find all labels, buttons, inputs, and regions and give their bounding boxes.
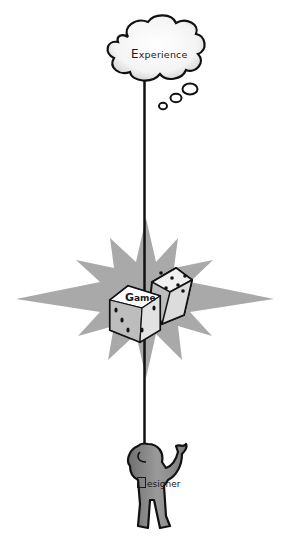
- game-label: Game: [125, 291, 156, 304]
- missing-glyph-box: [137, 477, 146, 488]
- thought-cloud: [108, 15, 205, 109]
- thought-bubble-large: [183, 84, 198, 95]
- designer-label: esigner: [137, 477, 180, 489]
- thought-bubble-medium: [171, 94, 182, 102]
- diagram-svg: [0, 0, 292, 551]
- diagram-canvas: Experience Game esigner: [0, 0, 292, 551]
- experience-label: Experience: [131, 47, 188, 61]
- thought-bubble-small: [159, 103, 167, 110]
